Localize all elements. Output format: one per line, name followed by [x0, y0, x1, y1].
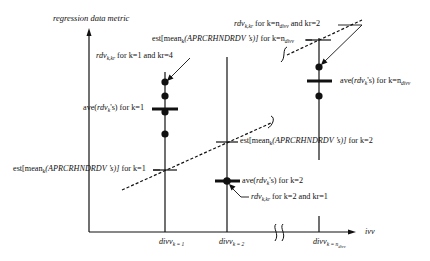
pre: est[mean — [152, 34, 182, 43]
data-point — [223, 177, 231, 185]
data-point — [315, 92, 322, 99]
var: rdv — [96, 51, 107, 60]
leader-rdv-k1 — [169, 58, 190, 79]
tick-base: divv — [313, 237, 327, 246]
data-point — [161, 78, 168, 85]
var: (APRCRHNDRDV ’s)] — [184, 34, 258, 43]
x-axis-arrow-icon — [348, 230, 356, 235]
var: (APRCRHNDRDV ’s)] — [272, 136, 346, 145]
pre: est[mean — [240, 136, 270, 145]
label-ave-k1: ave(rdvk's) for k=1 — [83, 104, 144, 112]
tick-sub: k = 1 — [173, 241, 185, 247]
post: 's) for k=2 — [269, 176, 303, 185]
text: and kr=2 — [289, 19, 320, 28]
tick-base: divv — [219, 237, 233, 246]
pre: ave( — [340, 76, 354, 85]
label-est-kn: est[meank(APRCRHNDRDV ’s)] for k=ndivv — [152, 35, 294, 43]
data-point — [161, 92, 168, 99]
x-tick-kn: divvk = ndivv — [313, 238, 346, 247]
sub: k,kr — [262, 196, 270, 202]
line-break-icon — [281, 47, 287, 62]
data-point — [161, 130, 168, 137]
post: for k=1 — [119, 164, 145, 173]
var: rdv — [251, 192, 262, 201]
line-break-icon — [268, 116, 273, 128]
pre: ave( — [242, 176, 256, 185]
tick-subsub: divv — [338, 244, 346, 249]
leader-rdv-kn — [323, 25, 362, 63]
x-tick-k2: divvk = 2 — [219, 238, 244, 246]
x-axis-label: ivv — [365, 228, 375, 236]
tick-base: divv — [159, 237, 173, 246]
text: for k=2 and kr=1 — [270, 192, 328, 201]
post: 's) for k=1 — [110, 103, 144, 112]
text: for k=n — [253, 19, 279, 28]
sub: divv — [285, 38, 294, 44]
y-axis-arrow-icon — [87, 28, 92, 36]
label-ave-kn: ave(rdvk's) for k=ndivv — [340, 77, 410, 85]
var: rdv — [234, 19, 245, 28]
sub: k,kr — [107, 55, 115, 61]
label-rdv-k2: rdvk,kr for k=2 and kr=1 — [251, 193, 328, 201]
pre: est[mean — [13, 164, 43, 173]
label-ave-k2: ave(rdvk's) for k=2 — [242, 177, 303, 185]
label-rdv-k1: rdvk,kr for k=1 and kr=4 — [96, 52, 173, 60]
pre: ave( — [83, 103, 97, 112]
arrowhead-icon — [229, 184, 236, 191]
x-tick-k1: divvk = 1 — [159, 238, 184, 246]
label-est-k1: est[meank(APRCRHNDRDV ’s)] for k=1 — [13, 165, 146, 173]
label-rdv-kn: rdvk,kr for k=ndivv and kr=2 — [234, 20, 320, 28]
var: rdv — [354, 76, 365, 85]
var: rdv — [256, 176, 267, 185]
var: rdv — [97, 103, 108, 112]
tick-sub: k = 2 — [233, 241, 245, 247]
sub: divv — [279, 23, 288, 29]
label-est-k2: est[meank(APRCRHNDRDV ’s)] for k=2 — [240, 137, 373, 145]
post: 's) for k=n — [367, 76, 401, 85]
post: for k=n — [258, 34, 284, 43]
var: (APRCRHNDRDV ’s)] — [45, 164, 119, 173]
y-axis-label: regression data metric — [53, 14, 129, 23]
text: for k=1 and kr=4 — [115, 51, 173, 60]
tick-sub: k = n — [327, 241, 339, 247]
sub: divv — [401, 80, 410, 86]
sub: k,kr — [245, 23, 253, 29]
post: for k=2 — [346, 136, 372, 145]
